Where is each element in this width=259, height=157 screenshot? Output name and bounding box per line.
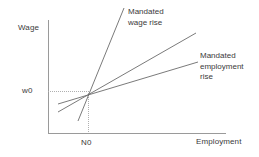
labour-supply-curve bbox=[78, 8, 124, 121]
x-tick-label-n0: N0 bbox=[81, 138, 91, 148]
annotation-mandated-employment-rise-line1: Mandated bbox=[200, 51, 244, 62]
y-axis-label: Wage bbox=[18, 23, 39, 33]
annotation-mandated-wage-rise-line2: wage rise bbox=[128, 18, 164, 29]
mandated-wage-rise-curve bbox=[58, 33, 196, 112]
y-tick-label-w0: w0 bbox=[22, 86, 32, 96]
annotation-mandated-employment-rise: Mandated employment rise bbox=[200, 51, 244, 83]
mandated-employment-rise-curve bbox=[58, 62, 198, 104]
annotation-mandated-wage-rise-line1: Mandated bbox=[128, 7, 164, 18]
diagram-canvas: Wage Employment w0 N0 Mandated wage rise… bbox=[0, 0, 259, 157]
annotation-mandated-employment-rise-line2: employment bbox=[200, 62, 244, 73]
x-axis-label: Employment bbox=[196, 137, 241, 147]
annotation-mandated-wage-rise: Mandated wage rise bbox=[128, 7, 164, 28]
annotation-mandated-employment-rise-line3: rise bbox=[200, 72, 244, 83]
